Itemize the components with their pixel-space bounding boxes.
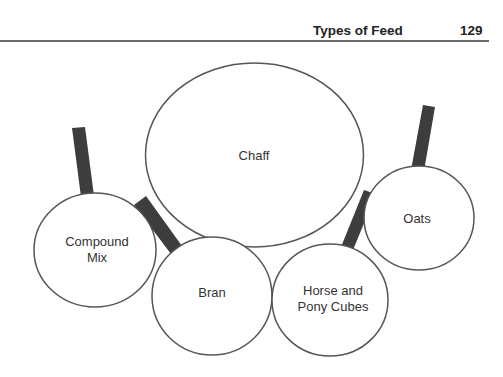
scoop-label: Compound bbox=[65, 234, 129, 249]
scoop-label: Chaff bbox=[239, 148, 270, 163]
scoop-compound-mix: Compound Mix bbox=[34, 193, 156, 307]
scoop-horse-pony-cubes: Horse and Pony Cubes bbox=[272, 244, 388, 356]
scoop-chaff: Chaff bbox=[146, 63, 364, 247]
scoop-label: Pony Cubes bbox=[298, 299, 369, 314]
compound-mix-scoop-handle bbox=[72, 127, 94, 197]
feed-scoops-diagram: Chaff Compound Mix Bran Horse and Pony C… bbox=[0, 0, 503, 377]
oats-scoop-handle bbox=[411, 105, 435, 171]
scoop-label: Horse and bbox=[303, 283, 363, 298]
scoop-label: Oats bbox=[403, 211, 431, 226]
scoop-label: Bran bbox=[198, 285, 225, 300]
scoop-label: Mix bbox=[87, 250, 108, 265]
scoop-bran: Bran bbox=[152, 237, 272, 355]
scoop-oats: Oats bbox=[364, 166, 474, 270]
